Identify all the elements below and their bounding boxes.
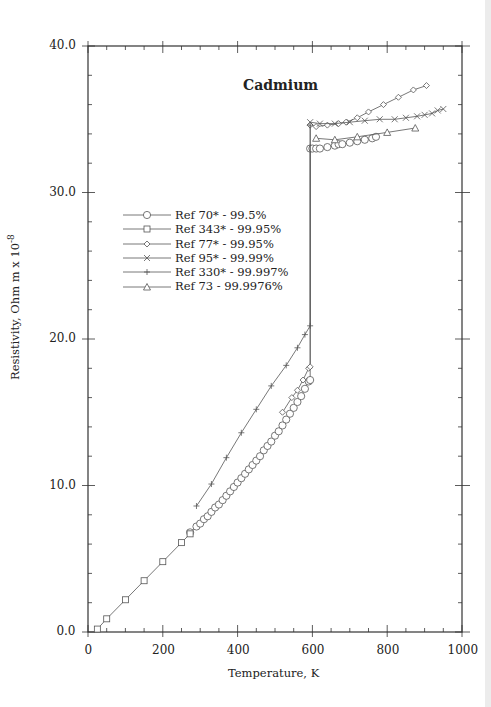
- y-axis-label-exponent: -8: [6, 234, 16, 243]
- plot-frame: [88, 46, 462, 632]
- legend-item: Ref 73 - 99.9976%: [123, 279, 288, 293]
- legend-label: Ref 73 - 99.9976%: [175, 279, 283, 293]
- y-axis-label-text: Resistivity, Ohm m x 10: [8, 243, 22, 380]
- y-tick-label: 30.0: [49, 185, 76, 199]
- y-tick-label: 20.0: [49, 331, 76, 345]
- legend-label: Ref 70* - 99.5%: [175, 208, 267, 222]
- square-marker-icon: [123, 223, 171, 235]
- legend-label: Ref 95* - 99.99%: [175, 251, 274, 265]
- legend-item: Ref 77* - 99.95%: [123, 237, 288, 251]
- legend-label: Ref 330* - 99.997%: [175, 265, 288, 279]
- x-tick-label: 0: [84, 643, 92, 657]
- legend-item: Ref 70* - 99.5%: [123, 208, 288, 222]
- diamond-marker-icon: [123, 238, 171, 250]
- series-circle: [187, 133, 380, 536]
- chart-title: Cadmium: [243, 77, 318, 93]
- page-edge-strip: [485, 0, 491, 707]
- series-diamond: [279, 83, 429, 416]
- chart-legend: Ref 70* - 99.5% Ref 343* - 99.95% Ref 77…: [123, 208, 288, 294]
- series-plus: [193, 122, 313, 509]
- x-tick-label: 400: [227, 643, 250, 657]
- chart-plot: [0, 0, 491, 707]
- legend-item: Ref 95* - 99.99%: [123, 251, 288, 265]
- x-marker-icon: [123, 252, 171, 264]
- y-tick-label: 10.0: [49, 478, 76, 492]
- y-tick-label: 0.0: [56, 624, 75, 638]
- x-tick-label: 200: [152, 643, 175, 657]
- circle-marker-icon: [123, 209, 171, 221]
- x-tick-label: 600: [302, 643, 325, 657]
- plus-marker-icon: [123, 266, 171, 278]
- y-tick-label: 40.0: [49, 38, 76, 52]
- x-tick-label: 800: [376, 643, 399, 657]
- series-x: [307, 106, 446, 127]
- x-tick-label: 1000: [448, 643, 479, 657]
- legend-label: Ref 343* - 99.95%: [175, 222, 281, 236]
- legend-label: Ref 77* - 99.95%: [175, 237, 274, 251]
- series-square: [94, 531, 193, 632]
- triangle-marker-icon: [123, 281, 171, 293]
- legend-item: Ref 330* - 99.997%: [123, 265, 288, 279]
- x-axis-label: Temperature, K: [228, 666, 319, 680]
- y-axis-label: Resistivity, Ohm m x 10-8: [6, 234, 22, 380]
- legend-item: Ref 343* - 99.95%: [123, 222, 288, 236]
